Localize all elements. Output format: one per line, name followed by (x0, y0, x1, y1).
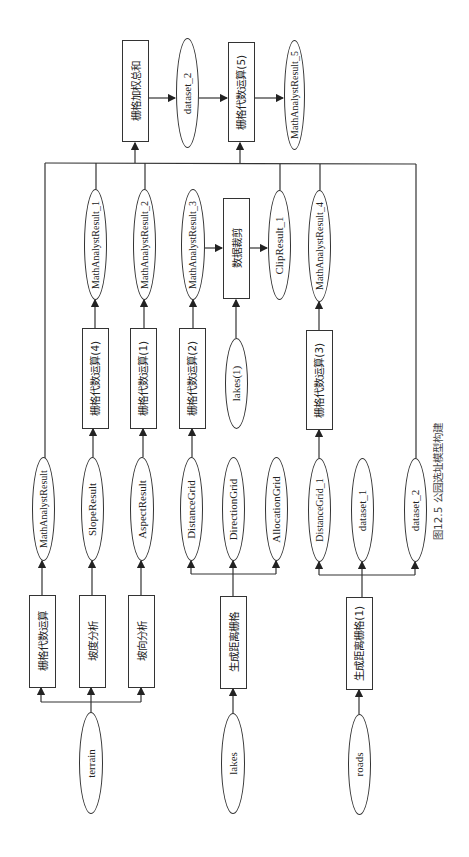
math-result-5-node[interactable]: MathAnalystResult_5 (284, 40, 305, 150)
aspect-analysis-tool[interactable]: 坡向分析 (128, 595, 155, 688)
clip-result-1-node[interactable]: ClipResult_1 (268, 190, 291, 300)
data-clip-tool[interactable]: 数据裁剪 (223, 198, 250, 299)
gen-distance-grid-1-label: 生成距离栅格(1) (354, 606, 365, 681)
terrain-node[interactable]: terrain (79, 712, 103, 814)
math-result-node[interactable]: MathAnalystResult (32, 457, 55, 561)
dataset-2-top-node[interactable]: dataset_2 (176, 38, 199, 148)
aspect-analysis-label: 坡向分析 (136, 622, 147, 662)
slope-analysis-label: 坡度分析 (87, 622, 98, 662)
raster-calc-label: 栅格代数运算 (37, 612, 48, 672)
math-result-2-label: MathAnalystResult_2 (140, 201, 150, 289)
slope-result-node[interactable]: SlopeResult (81, 457, 104, 561)
lakes-node[interactable]: lakes (221, 713, 245, 814)
allocation-grid-label: AllocationGrid (271, 476, 282, 543)
math-result-1-node[interactable]: MathAnalystResult_1 (84, 189, 107, 300)
math-result-label: MathAnalystResult (39, 470, 49, 548)
aspect-result-label: AspectResult (137, 480, 148, 539)
roads-node[interactable]: roads (348, 714, 371, 815)
gen-distance-grid-tool[interactable]: 生成距离栅格 (220, 596, 247, 689)
dataset-1-node[interactable]: dataset_1 (351, 458, 374, 562)
math-result-5-label: MathAnalystResult_5 (290, 51, 300, 139)
lakes-1-label: lakes(1) (231, 366, 242, 401)
distance-grid-1-label: DistanceGrid_1 (315, 478, 325, 541)
raster-calc-4-tool[interactable]: 栅格代数运算(4) (82, 328, 109, 429)
lakes-1-node[interactable]: lakes(1) (225, 338, 248, 429)
allocation-grid-node[interactable]: AllocationGrid (265, 457, 288, 561)
raster-calc-2-tool[interactable]: 栅格代数运算(2) (179, 328, 206, 429)
raster-calc-1-tool[interactable]: 栅格代数运算(1) (130, 328, 157, 429)
math-result-3-node[interactable]: MathAnalystResult_3 (181, 189, 205, 300)
roads-label: roads (354, 753, 365, 777)
dataset-1-label: dataset_1 (357, 489, 368, 531)
weighted-sum-label: 栅格加权总和 (130, 61, 141, 121)
weighted-sum-tool[interactable]: 栅格加权总和 (122, 40, 149, 142)
clip-result-1-label: ClipResult_1 (274, 216, 285, 274)
raster-calc-5-label: 栅格代数运算(5) (236, 55, 247, 130)
figure-caption-text: 图12.5 公园选址模型构建 (430, 423, 445, 540)
raster-calc-2-label: 栅格代数运算(2) (187, 341, 198, 416)
lakes-label: lakes (228, 752, 239, 775)
raster-calc-3-tool[interactable]: 栅格代数运算(3) (306, 330, 333, 430)
raster-calc-3-label: 栅格代数运算(3) (314, 343, 325, 418)
terrain-label: terrain (86, 749, 97, 778)
distance-grid-node[interactable]: DistanceGrid (180, 457, 203, 561)
raster-calc-4-label: 栅格代数运算(4) (90, 341, 101, 416)
distance-grid-label: DistanceGrid (186, 480, 197, 539)
raster-calc-5-tool[interactable]: 栅格代数运算(5) (228, 42, 255, 142)
distance-grid-1-node[interactable]: DistanceGrid_1 (308, 458, 331, 562)
math-result-4-node[interactable]: MathAnalystResult_4 (308, 190, 331, 302)
gen-distance-grid-1-tool[interactable]: 生成距离栅格(1) (346, 597, 373, 690)
raster-calc-1-label: 栅格代数运算(1) (138, 341, 149, 416)
math-result-2-node[interactable]: MathAnalystResult_2 (133, 189, 156, 300)
direction-grid-label: DirectionGrid (228, 478, 239, 540)
slope-result-label: SlopeResult (87, 482, 98, 535)
aspect-result-node[interactable]: AspectResult (130, 457, 154, 561)
data-clip-label: 数据裁剪 (231, 229, 242, 269)
gen-distance-grid-label: 生成距离栅格 (228, 613, 239, 673)
dataset-2-low-node[interactable]: dataset_2 (404, 458, 427, 562)
dataset-2-top-label: dataset_2 (182, 72, 193, 114)
math-result-4-label: MathAnalystResult_4 (315, 202, 325, 290)
slope-analysis-tool[interactable]: 坡度分析 (79, 595, 106, 688)
raster-calc-tool[interactable]: 栅格代数运算 (29, 595, 56, 688)
math-result-1-label: MathAnalystResult_1 (91, 201, 101, 289)
dataset-2-low-label: dataset_2 (410, 489, 421, 531)
math-result-3-label: MathAnalystResult_3 (188, 201, 198, 289)
direction-grid-node[interactable]: DirectionGrid (222, 457, 245, 561)
